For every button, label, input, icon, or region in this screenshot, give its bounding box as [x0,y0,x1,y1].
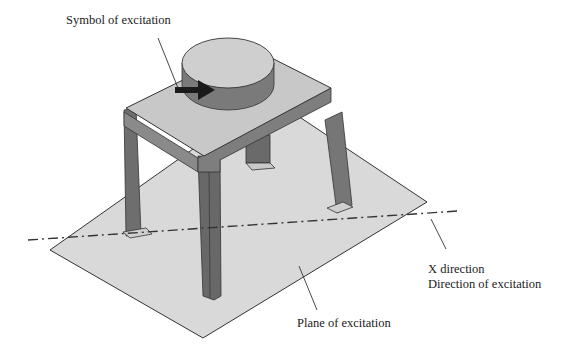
leader-direction [431,219,446,249]
diagram-canvas [0,0,574,356]
cylinder-mass [182,38,274,110]
leader-symbol [158,38,178,88]
label-plane-of-excitation: Plane of excitation [297,316,391,331]
label-direction-of-excitation: Direction of excitation [428,277,541,292]
label-x-direction: X direction [428,262,485,277]
label-symbol-of-excitation: Symbol of excitation [66,13,171,28]
